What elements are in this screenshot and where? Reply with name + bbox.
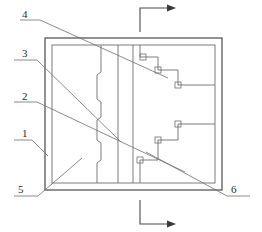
bottom-section-arrow: [140, 200, 167, 224]
callout-label-2: 2: [22, 91, 28, 102]
leader-line-4: [20, 20, 168, 78]
leader-line-1: [14, 140, 48, 156]
lower-step-path: [140, 124, 215, 183]
callout-label-3: 3: [22, 48, 28, 59]
leader-line-3: [14, 60, 121, 142]
bottom-section-arrowhead: [167, 221, 176, 228]
top-section-arrow: [140, 8, 167, 32]
callout-label-1: 1: [22, 128, 28, 139]
callout-label-4: 4: [22, 9, 28, 20]
upper-step-path: [140, 45, 215, 85]
callout-label-6: 6: [231, 184, 237, 195]
top-section-arrowhead: [167, 5, 176, 12]
stepped-divider: [97, 45, 101, 183]
technical-line-drawing: [0, 0, 262, 232]
callout-label-5: 5: [18, 184, 24, 195]
figure-canvas: 4 3 2 1 5 6: [0, 0, 262, 232]
